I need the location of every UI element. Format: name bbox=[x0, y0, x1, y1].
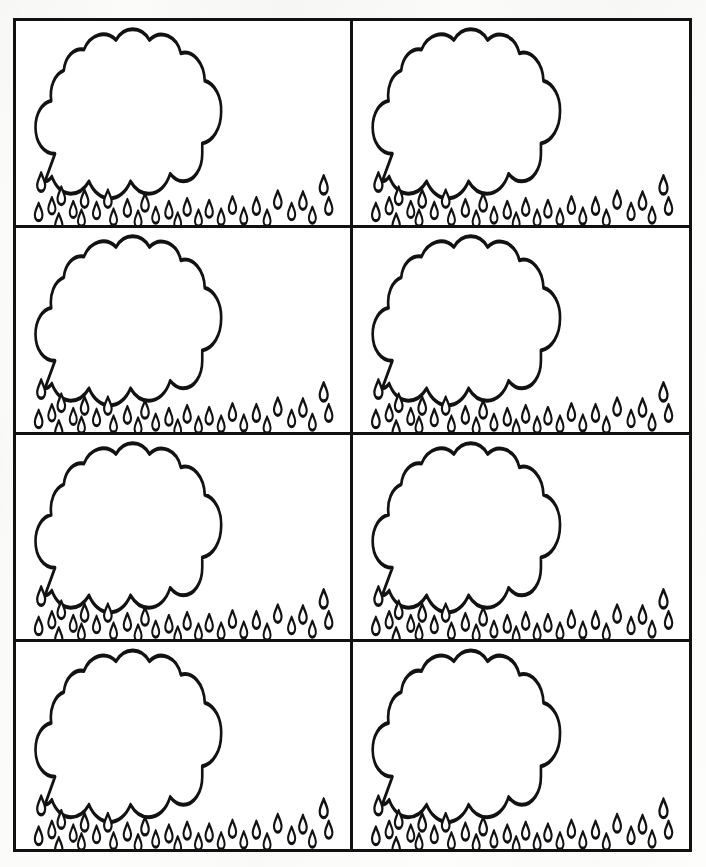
raindrop bbox=[70, 408, 77, 424]
raindrop bbox=[274, 814, 282, 832]
raindrop bbox=[264, 834, 271, 849]
raindrop bbox=[385, 611, 392, 628]
raindrop bbox=[627, 410, 634, 427]
raindrop bbox=[124, 613, 131, 630]
raindrop bbox=[141, 194, 149, 211]
raindrop bbox=[613, 814, 621, 832]
rain-cloud-card[interactable] bbox=[353, 21, 690, 228]
raindrop bbox=[374, 173, 382, 191]
raindrop bbox=[37, 173, 45, 191]
raindrop bbox=[135, 418, 142, 432]
raindrop bbox=[522, 822, 529, 839]
raindrop bbox=[135, 625, 142, 639]
rain-cloud-card[interactable] bbox=[353, 228, 690, 435]
raindrop bbox=[240, 832, 247, 848]
raindrop bbox=[135, 835, 142, 849]
raindrop bbox=[567, 404, 574, 421]
raindrop bbox=[206, 200, 213, 217]
rain-cloud-card[interactable] bbox=[16, 435, 353, 642]
raindrop bbox=[70, 825, 77, 841]
raindrop bbox=[430, 202, 437, 219]
raindrop bbox=[35, 827, 43, 845]
raindrop bbox=[288, 617, 295, 634]
raindrop bbox=[415, 417, 422, 432]
raindrop bbox=[533, 834, 540, 849]
raindrop bbox=[472, 625, 479, 639]
raindrop bbox=[461, 406, 468, 423]
raindrop bbox=[392, 214, 399, 225]
raindrop bbox=[78, 624, 85, 639]
raindrop bbox=[430, 826, 437, 843]
raindrop bbox=[659, 383, 667, 401]
rain-cloud-card[interactable] bbox=[16, 21, 353, 228]
raindrop bbox=[556, 209, 563, 225]
raindrop bbox=[165, 408, 172, 425]
raindrop bbox=[664, 197, 671, 214]
raindrop bbox=[659, 590, 667, 608]
rain-cloud-card[interactable] bbox=[353, 435, 690, 642]
rain-cloud-card[interactable] bbox=[353, 642, 690, 849]
raindrop bbox=[253, 197, 260, 214]
raindrop bbox=[407, 408, 414, 424]
raindrop bbox=[579, 832, 586, 848]
raindrop bbox=[299, 815, 307, 833]
raindrop bbox=[591, 611, 598, 628]
raindrop bbox=[418, 604, 426, 621]
raindrop bbox=[325, 197, 332, 214]
raindrop bbox=[638, 192, 646, 209]
raindrop bbox=[372, 410, 380, 427]
raindrop bbox=[372, 203, 380, 220]
raindrop bbox=[613, 398, 621, 415]
raindrop bbox=[81, 813, 89, 831]
raindrop bbox=[299, 606, 307, 623]
raindrop bbox=[479, 817, 487, 835]
raindrop bbox=[253, 404, 260, 421]
raindrop bbox=[274, 398, 282, 415]
raindrop bbox=[325, 404, 332, 421]
raindrop bbox=[320, 383, 328, 401]
raindrop bbox=[165, 615, 172, 632]
raindrop bbox=[591, 404, 598, 421]
rain-cloud-card[interactable] bbox=[16, 228, 353, 435]
raindrop bbox=[461, 823, 468, 840]
raindrop bbox=[288, 827, 295, 844]
cloud-with-raindrops bbox=[353, 642, 690, 849]
raindrop bbox=[567, 820, 574, 837]
cloud-outline bbox=[372, 236, 559, 405]
raindrop bbox=[374, 380, 382, 398]
raindrop bbox=[206, 824, 213, 841]
cloud-with-raindrops bbox=[353, 21, 690, 225]
raindrop bbox=[78, 417, 85, 432]
raindrop bbox=[206, 407, 213, 424]
raindrop bbox=[602, 834, 609, 849]
raindrop bbox=[392, 837, 399, 849]
raindrop bbox=[264, 417, 271, 432]
raindrop bbox=[544, 407, 551, 424]
raindrop bbox=[591, 197, 598, 214]
raindrop bbox=[320, 590, 328, 608]
raindrop bbox=[93, 826, 100, 843]
raindrop bbox=[627, 203, 634, 220]
raindrop bbox=[274, 191, 282, 208]
raindrop bbox=[78, 210, 85, 225]
raindrop bbox=[461, 199, 468, 216]
raindrop bbox=[320, 799, 328, 818]
raindrop bbox=[152, 621, 159, 637]
raindrop bbox=[110, 833, 117, 849]
raindrop bbox=[430, 616, 437, 633]
cloud-outline bbox=[36, 650, 222, 822]
cloud-outline bbox=[36, 29, 222, 198]
raindrop bbox=[579, 208, 586, 224]
raindrop bbox=[556, 833, 563, 849]
rain-cloud-card[interactable] bbox=[16, 642, 353, 849]
raindrop bbox=[206, 614, 213, 631]
raindrop bbox=[472, 418, 479, 432]
raindrop bbox=[165, 825, 172, 842]
raindrop bbox=[503, 615, 510, 632]
raindrop bbox=[490, 207, 497, 223]
raindrop bbox=[152, 831, 159, 847]
raindrop bbox=[110, 416, 117, 432]
raindrop bbox=[512, 213, 519, 225]
raindrop bbox=[288, 410, 295, 427]
raindrop bbox=[602, 624, 609, 639]
